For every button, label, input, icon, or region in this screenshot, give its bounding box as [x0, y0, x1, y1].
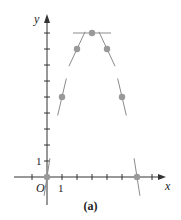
origin-label: O — [36, 181, 45, 195]
data-point — [89, 30, 95, 36]
y-axis-label: y — [33, 12, 40, 26]
data-point — [104, 46, 110, 52]
data-point — [44, 174, 50, 180]
figure-caption: (a) — [0, 199, 181, 214]
tangent-segments — [44, 32, 140, 196]
y-axis-arrow-icon — [44, 14, 50, 23]
tangent-slope-figure: y x O 1 1 — [0, 0, 181, 220]
data-point — [134, 174, 140, 180]
data-point — [74, 46, 80, 52]
data-point — [59, 94, 65, 100]
axes — [14, 14, 166, 205]
y-tick-label-1: 1 — [36, 155, 42, 167]
x-tick-label-1: 1 — [58, 182, 64, 194]
data-point — [119, 94, 125, 100]
x-axis-label: x — [164, 179, 171, 193]
data-points — [44, 30, 140, 180]
